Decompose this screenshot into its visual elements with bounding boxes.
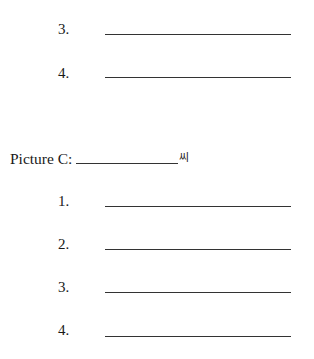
picture-c-heading: Picture C:씨 <box>10 149 189 167</box>
honorific-suffix: 씨 <box>179 151 189 164</box>
answer-blank[interactable] <box>105 77 291 78</box>
answer-blank[interactable] <box>105 34 291 35</box>
answer-blank[interactable] <box>105 336 291 337</box>
item-number: 1. <box>58 194 69 209</box>
item-number: 3. <box>58 22 69 37</box>
answer-blank[interactable] <box>105 206 291 207</box>
picture-c-label: Picture C: <box>10 150 72 167</box>
name-blank[interactable] <box>76 149 178 164</box>
item-number: 2. <box>58 237 69 252</box>
item-number: 3. <box>58 280 69 295</box>
item-number: 4. <box>58 66 69 81</box>
item-number: 4. <box>58 323 69 338</box>
answer-blank[interactable] <box>105 292 291 293</box>
answer-blank[interactable] <box>105 249 291 250</box>
